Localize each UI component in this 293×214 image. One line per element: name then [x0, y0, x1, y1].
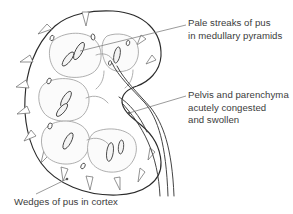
- annotation-line: in medullary pyramids: [188, 30, 282, 43]
- pus-focus: [108, 60, 112, 65]
- leader-dot-pelvis: [128, 112, 131, 115]
- annotation-line: Pale streaks of pus: [188, 17, 282, 30]
- leader-dot-wedges: [66, 178, 69, 181]
- annotation-wedges: Wedges of pus in cortex: [14, 196, 118, 209]
- leader-line-wedges: [36, 179, 67, 194]
- annotation-pale-streaks: Pale streaks of pus in medullary pyramid…: [188, 17, 282, 42]
- medullary-pyramids-group: [39, 33, 139, 172]
- annotation-line: acutely congested: [188, 102, 289, 115]
- pus-focus: [91, 34, 96, 40]
- cortex-wedge: [20, 55, 33, 62]
- figure-canvas: Pale streaks of pus in medullary pyramid…: [0, 0, 293, 214]
- annotation-pelvis: Pelvis and parenchyma acutely congested …: [188, 89, 289, 127]
- annotation-line: Wedges of pus in cortex: [14, 196, 118, 209]
- leader-line-pelvis: [129, 96, 186, 113]
- annotation-line: Pelvis and parenchyma: [188, 89, 289, 102]
- annotation-line: and swollen: [188, 114, 289, 127]
